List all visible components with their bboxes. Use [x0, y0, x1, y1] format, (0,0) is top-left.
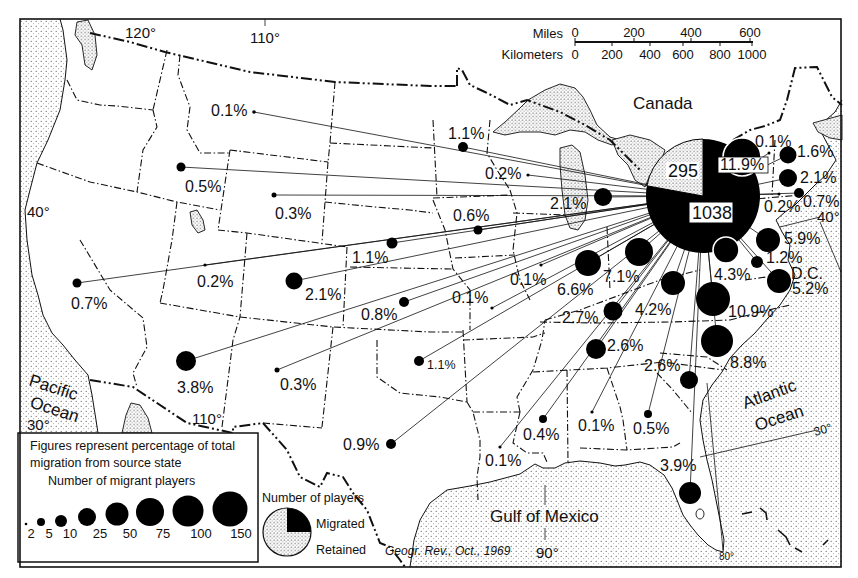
legend-size-circle	[136, 498, 164, 526]
flow-percent-label: 0.2%	[764, 198, 800, 215]
pie-legend-title: Number of players	[262, 491, 364, 505]
flow-dot	[779, 169, 797, 187]
flow-percent-label: 0.5%	[633, 420, 669, 437]
flow-percent-label: 2.1%	[305, 286, 341, 303]
flow-percent-label: 0.4%	[523, 426, 559, 443]
flow-percent-label: 2.6%	[607, 337, 643, 354]
scale-miles-label: Miles	[533, 26, 564, 41]
flow-percent-label: 0.1%	[755, 133, 791, 150]
flow-dot	[661, 271, 685, 295]
flow-dot	[399, 297, 409, 307]
legend-note-line1: Figures represent percentage of total	[30, 439, 235, 453]
flow-dot	[275, 368, 280, 373]
legend-size-value: 75	[156, 526, 170, 541]
legend-size-circle	[213, 492, 248, 527]
flow-dot	[73, 279, 82, 288]
flow-percent-label: 2.1%	[550, 195, 586, 212]
flow-percent-label: 5.2%	[792, 280, 828, 297]
legend-size-value: 5	[45, 526, 52, 541]
flow-dot	[474, 226, 483, 235]
flow-dot	[386, 439, 396, 449]
scale-km-label: Kilometers	[502, 47, 564, 62]
flow-dot	[713, 237, 739, 263]
legend-size-value: 25	[93, 526, 107, 541]
flow-percent-label: 0.5%	[185, 178, 221, 195]
flow-dot	[575, 250, 601, 276]
scale-miles-tick-label: 0	[571, 25, 578, 40]
flow-dot	[387, 238, 398, 249]
flow-percent-label: 1.6%	[797, 143, 833, 160]
pie-legend-retained-label: Retained	[316, 543, 366, 557]
legend-size-value: 100	[190, 526, 212, 541]
flow-dot	[604, 302, 623, 321]
lat-40-west-label: 40°	[27, 203, 50, 220]
flow-dot	[679, 482, 701, 504]
size-legend: Figures represent percentage of total mi…	[18, 433, 258, 562]
lon-110-bottom-label: 110°	[192, 410, 222, 427]
lon-80-label: 80°	[719, 551, 734, 562]
flow-dot	[680, 371, 698, 389]
scale-km-tick-label: 200	[601, 47, 623, 62]
legend-size-circle	[25, 523, 28, 526]
flow-dot	[539, 415, 547, 423]
flow-percent-label: 1.2%	[766, 249, 802, 266]
pie-retained-count: 295	[668, 161, 698, 181]
legend-size-circle	[78, 508, 96, 526]
flow-percent-label: 7.1%	[603, 268, 639, 285]
flow-percent-label: 6.6%	[557, 281, 593, 298]
flow-dot	[490, 306, 493, 309]
flow-percent-label: 11.9%	[720, 156, 764, 173]
flow-dot	[286, 273, 303, 290]
flow-percent-label: 0.1%	[578, 417, 614, 434]
flow-percent-label: 0.1%	[211, 102, 247, 119]
flow-dot	[498, 445, 501, 448]
flow-dot	[590, 410, 593, 413]
scale-km-tick-label: 1000	[738, 47, 767, 62]
flow-percent-label: 10.9%	[728, 303, 773, 320]
flow-percent-label: 2.6%	[644, 357, 680, 374]
lon-120-label: 120°	[125, 24, 156, 41]
flow-dot	[644, 410, 652, 418]
scale-miles-tick-label: 200	[623, 25, 645, 40]
flow-percent-label: 0.1%	[485, 452, 521, 469]
flow-percent-label: 0.6%	[453, 207, 489, 224]
flow-percent-label: 3.8%	[177, 379, 213, 396]
flow-percent-label: 8.8%	[730, 354, 766, 371]
scale-miles-tick-label: 600	[739, 25, 761, 40]
lat-30-west-label: 30°	[27, 416, 50, 433]
scale-km-tick-label: 400	[639, 47, 661, 62]
canada-label: Canada	[633, 94, 693, 113]
flow-percent-label: 5.9%	[784, 230, 820, 247]
flow-dot	[414, 356, 424, 366]
flow-dot	[586, 339, 606, 359]
pie-migrated-count: 1038	[692, 203, 732, 223]
flow-percent-label: 0.7%	[71, 295, 107, 312]
flow-dot	[625, 238, 653, 266]
scale-km-tick-label: 0	[571, 47, 578, 62]
flow-percent-label: 1.1%	[427, 358, 456, 372]
legend-size-value: 10	[63, 526, 77, 541]
flow-percent-label: 1.1%	[352, 249, 388, 266]
flow-dot	[778, 193, 781, 196]
migration-map-figure: 295 1038 0.1%0.5%0.3%0.7%0.2%1.1%2.1%0.8…	[0, 0, 858, 578]
flow-dot	[177, 163, 186, 172]
scale-miles-tick-label: 400	[680, 25, 702, 40]
flow-percent-label: 0.1%	[510, 271, 546, 288]
flow-percent-label: 0.3%	[275, 205, 311, 222]
flow-dot	[767, 269, 791, 293]
flow-dot	[458, 142, 468, 152]
lon-110-top-label: 110°	[250, 29, 280, 46]
legend-note-line2: migration from source state	[30, 456, 181, 470]
flow-dot	[701, 325, 733, 357]
flow-dot	[526, 173, 529, 176]
flow-dot	[203, 263, 206, 266]
legend-size-value: 2	[27, 526, 34, 541]
flow-percent-label: 3.9%	[660, 457, 696, 474]
flow-dot	[539, 263, 542, 266]
scale-km-tick-label: 600	[672, 47, 694, 62]
legend-size-value: 150	[230, 526, 252, 541]
gulf-of-mexico-label: Gulf of Mexico	[490, 507, 599, 526]
flow-percent-label: 2.1%	[800, 169, 836, 186]
legend-size-value: 50	[123, 526, 137, 541]
flow-dot	[768, 152, 771, 155]
